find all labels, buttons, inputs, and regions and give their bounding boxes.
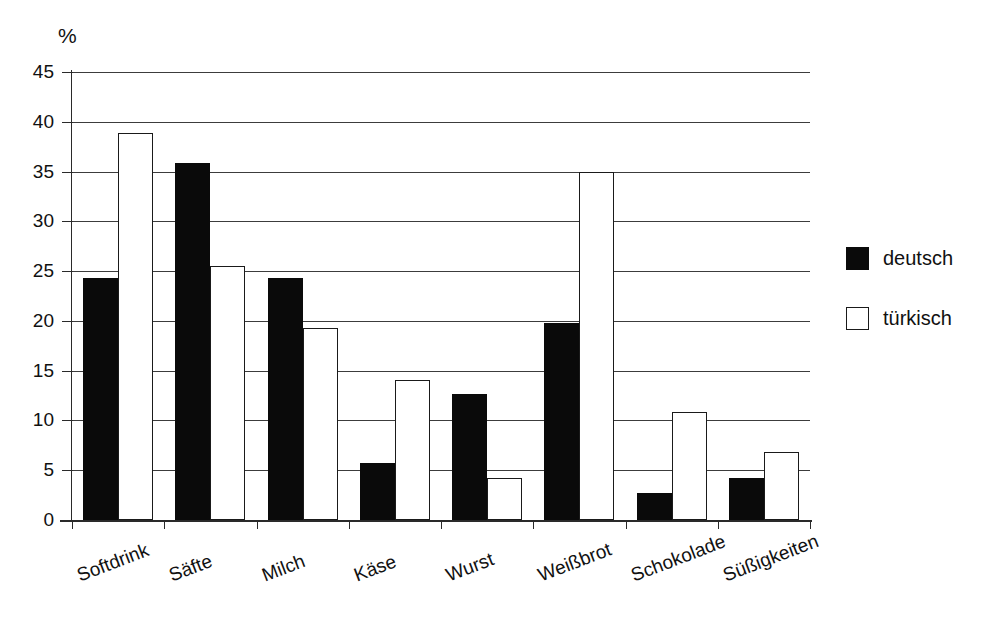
chart-legend: deutschtürkisch [846, 243, 953, 363]
x-tick-mark [533, 520, 534, 529]
plot-area [72, 72, 810, 520]
y-tick-label: 15 [20, 361, 54, 380]
y-tick-label: 25 [20, 261, 54, 280]
y-axis-unit-label: % [58, 24, 77, 48]
bar-deutsch-schokolade [637, 493, 672, 520]
x-axis-label-süßigkeiten: Süßigkeiten [720, 530, 822, 586]
bar-deutsch-weißbrot [544, 323, 579, 520]
legend-label: türkisch [883, 308, 952, 328]
x-tick-mark [257, 520, 258, 529]
bar-deutsch-käse [360, 463, 395, 520]
x-tick-mark [349, 520, 350, 529]
y-tick-label: 45 [20, 62, 54, 81]
x-tick-mark [718, 520, 719, 529]
bar-türkisch-süßigkeiten [764, 452, 799, 520]
x-axis-label-softdrink: Softdrink [74, 539, 152, 586]
bar-deutsch-säfte [175, 163, 210, 520]
x-tick-mark [441, 520, 442, 529]
x-tick-mark [626, 520, 627, 529]
bar-türkisch-milch [303, 328, 338, 520]
bar-türkisch-käse [395, 380, 430, 520]
x-axis-label-wurst: Wurst [443, 548, 497, 586]
legend-item-deutsch[interactable]: deutsch [846, 243, 953, 273]
y-tick-label: 20 [20, 311, 54, 330]
legend-label: deutsch [883, 248, 953, 268]
y-tick-label: 0 [20, 510, 54, 529]
x-axis-label-säfte: Säfte [166, 550, 215, 586]
bar-türkisch-säfte [210, 266, 245, 520]
x-axis-label-milch: Milch [259, 550, 308, 586]
x-axis-label-schokolade: Schokolade [628, 530, 729, 586]
bar-chart-figure: % 051015202530354045 SoftdrinkSäfteMilch… [0, 0, 988, 626]
bar-türkisch-wurst [487, 478, 522, 520]
x-axis-line [60, 520, 812, 522]
y-tick-label: 40 [20, 112, 54, 131]
legend-swatch-icon [846, 247, 869, 270]
bar-türkisch-softdrink [118, 133, 153, 520]
y-tick-label: 5 [20, 460, 54, 479]
x-tick-mark [810, 520, 811, 529]
bar-deutsch-wurst [452, 394, 487, 520]
y-tick-label: 10 [20, 410, 54, 429]
bar-deutsch-süßigkeiten [729, 478, 764, 520]
legend-swatch-icon [846, 307, 869, 330]
bar-türkisch-weißbrot [579, 172, 614, 520]
y-tick-label: 30 [20, 211, 54, 230]
y-tick-label: 35 [20, 162, 54, 181]
x-axis-label-käse: Käse [351, 550, 399, 586]
bar-deutsch-milch [268, 278, 303, 520]
legend-item-türkisch[interactable]: türkisch [846, 303, 953, 333]
x-axis-label-weißbrot: Weißbrot [535, 539, 615, 587]
x-tick-mark [72, 520, 73, 529]
bar-türkisch-schokolade [672, 412, 707, 520]
x-tick-mark [164, 520, 165, 529]
bar-deutsch-softdrink [83, 278, 118, 520]
